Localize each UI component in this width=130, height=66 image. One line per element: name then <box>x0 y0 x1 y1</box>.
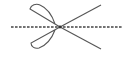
pivot-point <box>59 26 62 29</box>
upper-blade <box>60 5 101 27</box>
scissors-icon <box>0 0 130 66</box>
scissors-cut-line-figure <box>0 0 130 66</box>
lower-handle-loop <box>31 27 60 48</box>
lower-blade <box>60 27 101 49</box>
upper-handle-loop <box>30 4 60 27</box>
